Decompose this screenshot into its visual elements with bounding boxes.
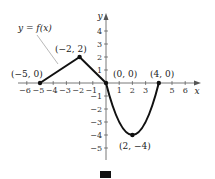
point-label: (−2, 2) [55,44,87,54]
svg-text:4: 4 [97,27,102,36]
function-label: y = f(x) [17,23,52,33]
svg-text:−3: −3 [59,86,71,95]
point-marker [130,133,134,137]
svg-text:3: 3 [143,86,148,95]
function-graph: −6 −5 −4 −3 −2 −1 1 2 3 5 6 x 1 2 3 4 −1… [0,0,215,179]
svg-text:−6: −6 [19,86,31,95]
y-axis-label: y [96,11,103,21]
svg-text:2: 2 [97,53,102,62]
svg-text:−4: −4 [90,131,102,140]
svg-text:−4: −4 [46,86,58,95]
svg-text:6: 6 [183,86,188,95]
point-label: (0, 0) [113,69,137,79]
point-label: (4, 0) [150,69,174,79]
x-tick-labels: −6 −5 −4 −3 −2 −1 1 2 3 5 6 [19,86,188,95]
y-axis-arrow-icon [104,13,109,20]
svg-text:5: 5 [169,86,174,95]
point-label: (2, −4) [119,141,151,151]
svg-text:−1: −1 [90,92,102,101]
svg-text:3: 3 [97,40,102,49]
point-label: (−5, 0) [11,69,43,79]
svg-text:−5: −5 [33,86,45,95]
point-marker [77,55,81,59]
point-marker [38,81,42,85]
svg-text:2: 2 [130,86,135,95]
svg-text:1: 1 [117,86,122,95]
svg-text:−3: −3 [90,118,102,127]
x-axis-arrow-icon [194,81,201,86]
svg-text:−2: −2 [90,105,102,114]
x-axis-label: x [194,86,199,96]
svg-text:−2: −2 [72,86,84,95]
end-square-icon [100,171,111,178]
point-marker [104,81,108,85]
point-marker [157,81,161,85]
svg-text:−5: −5 [90,144,102,153]
